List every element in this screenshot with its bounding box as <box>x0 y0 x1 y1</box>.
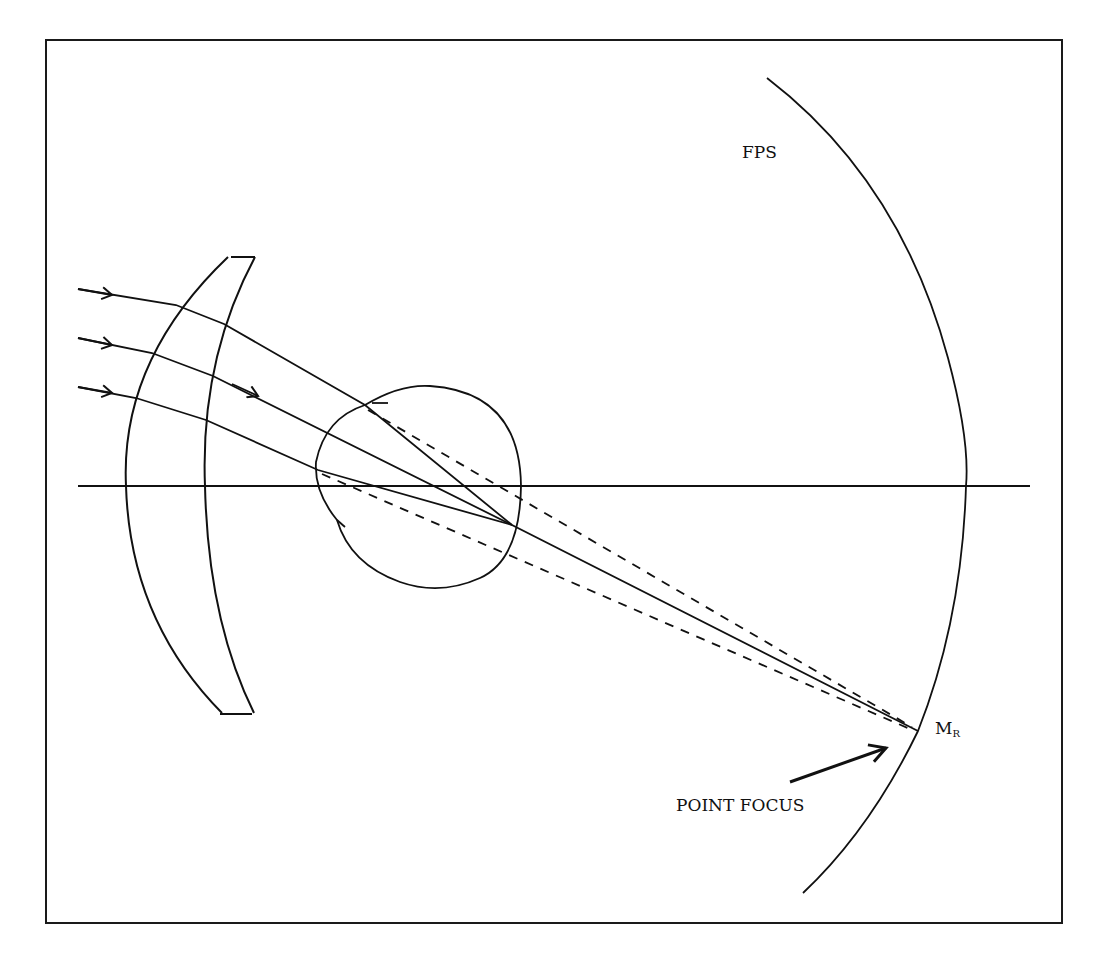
diagram-canvas: FPS MR POINT FOCUS <box>0 0 1097 963</box>
fps-label: FPS <box>742 144 777 161</box>
dashed-rays <box>322 410 912 729</box>
point-focus-label: POINT FOCUS <box>676 797 804 814</box>
ray-2-mid-arrow <box>232 384 258 396</box>
eye-outline <box>316 386 521 588</box>
dashed-ray-upper <box>368 410 912 727</box>
ray-3-arrow <box>78 387 112 393</box>
ray-2 <box>78 338 512 525</box>
eye <box>316 386 521 588</box>
ray-2-arrow <box>78 338 112 345</box>
mr-label: MR <box>935 720 960 739</box>
dashed-ray-lower <box>322 474 910 729</box>
lens-outer-surface <box>126 257 228 713</box>
mr-label-sub: R <box>952 728 960 739</box>
ray-1 <box>78 289 918 731</box>
ray-diagram-svg <box>0 0 1097 963</box>
point-focus-arrow <box>790 748 886 782</box>
lens-inner-surface <box>205 257 255 713</box>
incident-rays <box>78 289 918 731</box>
mr-label-main: M <box>935 718 952 738</box>
ray-1-arrow <box>78 289 112 295</box>
